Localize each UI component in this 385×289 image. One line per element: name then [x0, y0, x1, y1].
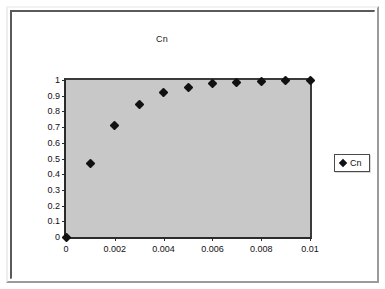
x-axis-tick [261, 237, 262, 241]
y-axis-label: 0.5 [47, 154, 60, 164]
x-axis-label: 0.004 [152, 244, 175, 254]
y-axis-label: 1 [55, 75, 60, 85]
y-axis-label: 0.7 [47, 122, 60, 132]
y-axis-tick [62, 80, 66, 81]
data-point-marker[interactable] [232, 77, 242, 87]
x-axis-label: 0.008 [250, 244, 273, 254]
data-point-marker[interactable] [207, 79, 217, 89]
legend-label-cn: Cn [350, 158, 362, 168]
x-axis-label: 0 [63, 244, 68, 254]
data-point-marker[interactable] [85, 159, 95, 169]
chart-legend[interactable]: Cn [334, 154, 370, 172]
plot-inner: 00.10.20.30.40.50.60.70.80.9100.0020.004… [66, 80, 310, 237]
y-axis-label: 0.6 [47, 138, 60, 148]
y-axis-tick [62, 127, 66, 128]
y-axis-label: 0.1 [47, 216, 60, 226]
diamond-marker-icon [339, 159, 347, 167]
chart-surface[interactable]: Cn 00.10.20.30.40.50.60.70.80.9100.0020.… [12, 12, 377, 281]
y-axis-tick [62, 159, 66, 160]
y-axis-tick [62, 206, 66, 207]
data-point-marker[interactable] [281, 76, 291, 86]
data-point-marker[interactable] [134, 99, 144, 109]
chart-title: Cn [12, 34, 312, 44]
data-point-marker[interactable] [305, 75, 315, 85]
y-axis-tick [62, 96, 66, 97]
y-axis-tick [62, 221, 66, 222]
data-point-marker[interactable] [110, 121, 120, 131]
chart-window-frame: Cn 00.10.20.30.40.50.60.70.80.9100.0020.… [6, 6, 379, 283]
y-axis-tick [62, 174, 66, 175]
x-axis-tick [212, 237, 213, 241]
data-point-marker[interactable] [159, 88, 169, 98]
x-axis-label: 0.01 [301, 244, 319, 254]
x-axis-label: 0.002 [104, 244, 127, 254]
x-axis-tick [164, 237, 165, 241]
data-point-marker[interactable] [61, 232, 71, 242]
y-axis-label: 0.4 [47, 169, 60, 179]
x-axis-tick [115, 237, 116, 241]
x-axis-label: 0.006 [201, 244, 224, 254]
y-axis-tick [62, 190, 66, 191]
data-point-marker[interactable] [256, 76, 266, 86]
y-axis-tick [62, 111, 66, 112]
y-axis-label: 0.9 [47, 91, 60, 101]
plot-area[interactable]: 00.10.20.30.40.50.60.70.80.9100.0020.004… [64, 78, 312, 239]
y-axis-label: 0.2 [47, 201, 60, 211]
x-axis-tick [310, 237, 311, 241]
y-axis-label: 0.8 [47, 106, 60, 116]
chart-window-inner-frame: Cn 00.10.20.30.40.50.60.70.80.9100.0020.… [10, 10, 375, 279]
y-axis-label: 0 [55, 232, 60, 242]
data-point-marker[interactable] [183, 82, 193, 92]
y-axis-label: 0.3 [47, 185, 60, 195]
y-axis-tick [62, 143, 66, 144]
